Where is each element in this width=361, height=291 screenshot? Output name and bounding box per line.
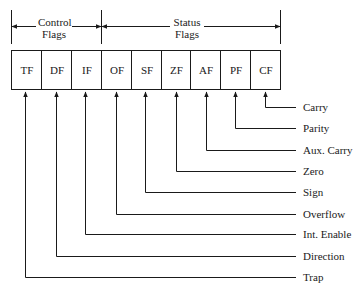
flag-cell-pf: PF	[221, 50, 251, 90]
group-label-line1: Status	[172, 16, 202, 28]
group-label-line2: Flags	[38, 28, 70, 40]
flag-cell-af: AF	[191, 50, 221, 90]
flag-cell-zf: ZF	[162, 50, 191, 90]
flag-label-sign: Sign	[303, 186, 323, 198]
group-label-line1: Control	[38, 16, 70, 28]
group-label-control-flags: Control Flags	[36, 16, 72, 40]
flag-label-zero: Zero	[303, 165, 324, 177]
flag-label-parity: Parity	[303, 122, 329, 134]
group-label-status-flags: Status Flags	[170, 16, 204, 40]
flag-label-aux-carry: Aux. Carry	[303, 144, 353, 156]
flag-label-overflow: Overflow	[303, 208, 345, 220]
flag-cell-df: DF	[42, 50, 72, 90]
flag-label-trap: Trap	[303, 271, 323, 283]
flag-cell-tf: TF	[12, 50, 42, 90]
group-label-line2: Flags	[172, 28, 202, 40]
flag-cell-sf: SF	[132, 50, 162, 90]
flag-cell-cf: CF	[251, 50, 281, 90]
flag-label-int-enable: Int. Enable	[303, 228, 351, 240]
flag-cell-of: OF	[102, 50, 132, 90]
flag-cell-if: IF	[72, 50, 102, 90]
flag-label-carry: Carry	[303, 101, 328, 113]
flag-label-direction: Direction	[303, 250, 345, 262]
